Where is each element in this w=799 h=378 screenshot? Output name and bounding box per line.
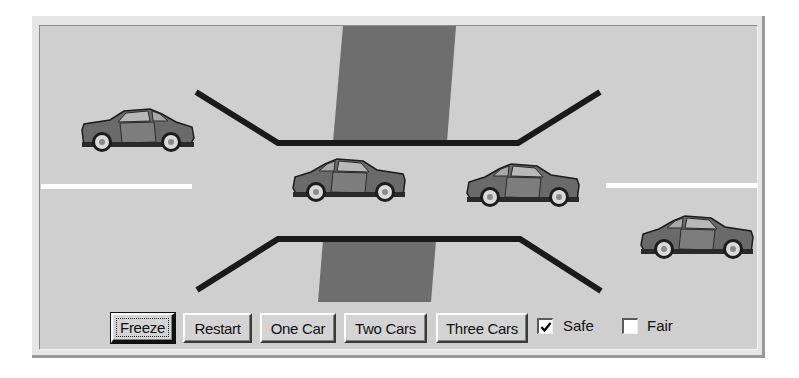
fair-label[interactable]: Fair <box>647 317 673 335</box>
safe-checkbox[interactable] <box>537 318 553 334</box>
three-cars-button[interactable]: Three Cars <box>436 313 528 343</box>
one-car-button[interactable]: One Car <box>260 313 336 343</box>
two-cars-button[interactable]: Two Cars <box>344 313 427 343</box>
restart-button[interactable]: Restart <box>183 313 252 343</box>
checkmark-icon <box>540 321 552 333</box>
fair-checkbox[interactable] <box>622 318 638 334</box>
safe-label[interactable]: Safe <box>563 317 594 335</box>
freeze-button[interactable]: Freeze <box>111 313 175 343</box>
